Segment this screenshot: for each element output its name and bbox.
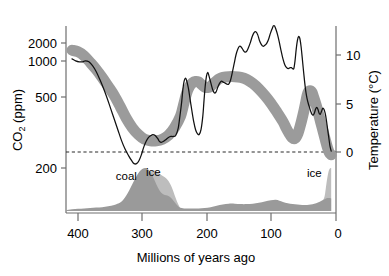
y2tick-label-5: 5: [346, 97, 353, 112]
x-axis-title: Millions of years ago: [137, 250, 256, 265]
chart-canvas: 2000 1000 500 200 10 5 0 400 300 200 100…: [0, 0, 389, 276]
ytick-label-2000: 2000: [28, 36, 57, 51]
y-axis-title-unit: (ppm): [10, 89, 25, 127]
y-axis-title-main: CO: [10, 132, 25, 152]
y2tick-label-0: 0: [346, 145, 353, 160]
annotation-ice-label-cenozoic: ice: [307, 167, 322, 179]
coal-area-shape: [66, 168, 331, 211]
right-axis-ticks: 10 5 0: [336, 48, 360, 160]
ytick-label-500: 500: [35, 90, 57, 105]
co2-temperature-chart: 2000 1000 500 200 10 5 0 400 300 200 100…: [0, 0, 389, 276]
xtick-label-100: 100: [260, 226, 282, 241]
deposit-areas: [66, 168, 331, 211]
annotation-coal-label: coal: [116, 170, 137, 182]
y-axis-title: CO2 (ppm): [10, 89, 27, 151]
y2tick-label-10: 10: [346, 48, 360, 63]
xtick-label-0: 0: [334, 226, 341, 241]
ytick-label-1000: 1000: [28, 54, 57, 69]
x-axis-ticks: 400 300 200 100 0: [67, 213, 341, 241]
xtick-label-400: 400: [67, 226, 89, 241]
annotation-ice-label-paleozoic: ice: [146, 166, 161, 178]
xtick-label-300: 300: [131, 226, 153, 241]
left-axis-ticks: 2000 1000 500 200: [28, 36, 66, 176]
y2-axis-title: Temperature (°C): [366, 70, 381, 170]
co2-band-curve: [72, 50, 331, 155]
svg-text:CO2 (ppm): CO2 (ppm): [10, 89, 27, 151]
ytick-label-200: 200: [35, 161, 57, 176]
xtick-label-200: 200: [196, 226, 218, 241]
